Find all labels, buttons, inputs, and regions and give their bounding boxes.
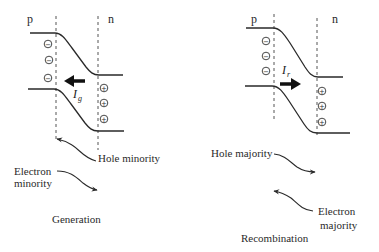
- right-arrow-icon: [280, 78, 301, 90]
- generation-current-subscript: g: [78, 94, 82, 103]
- negative-ions: − − −: [44, 40, 53, 82]
- electron-minority-label-line2: minority: [14, 177, 52, 189]
- svg-text:−: −: [45, 41, 51, 49]
- plus-icon: +: [318, 118, 326, 126]
- svg-text:−: −: [45, 75, 51, 83]
- electron-majority-label-line1: Electron: [318, 205, 356, 217]
- n-region-label: n: [108, 12, 114, 26]
- hole-majority-label: Hole majority: [211, 147, 273, 159]
- minus-icon: −: [262, 52, 270, 60]
- minus-icon: −: [45, 56, 53, 64]
- negative-ions: − − −: [262, 37, 270, 75]
- svg-text:−: −: [263, 38, 269, 46]
- pn-junction-diagrams: p n − − − + + + I g Hole minority Electr…: [0, 0, 379, 252]
- svg-text:−: −: [263, 68, 269, 76]
- recombination-caption: Recombination: [241, 232, 309, 244]
- recombination-current-subscript: r: [287, 70, 291, 79]
- conduction-band: [246, 28, 343, 77]
- positive-ions: + + +: [318, 87, 326, 126]
- svg-text:+: +: [101, 100, 107, 108]
- hole-majority-arrow: [274, 154, 315, 172]
- svg-text:−: −: [263, 53, 269, 61]
- generation-diagram: p n − − − + + + I g Hole minority Electr…: [14, 12, 161, 225]
- electron-minority-label-line1: Electron: [14, 165, 52, 177]
- minus-icon: −: [44, 74, 52, 82]
- hole-minority-label: Hole minority: [98, 152, 161, 164]
- conduction-band: [30, 33, 123, 75]
- plus-icon: +: [318, 102, 326, 110]
- minus-icon: −: [262, 37, 270, 45]
- svg-text:+: +: [101, 116, 107, 124]
- minus-icon: −: [44, 40, 52, 48]
- svg-text:+: +: [319, 119, 325, 127]
- plus-icon: +: [100, 99, 108, 107]
- p-region-label: p: [251, 12, 257, 26]
- plus-icon: +: [318, 87, 326, 95]
- plus-icon: +: [100, 115, 108, 123]
- electron-minority-arrow: [57, 171, 97, 190]
- left-arrow-icon: [64, 75, 85, 87]
- plus-icon: +: [100, 84, 108, 92]
- generation-caption: Generation: [52, 213, 101, 225]
- electron-majority-arrow: [274, 191, 313, 211]
- svg-text:−: −: [46, 57, 52, 65]
- valence-band: [245, 86, 350, 133]
- electron-majority-label-line2: majority: [320, 219, 358, 231]
- svg-text:+: +: [319, 103, 325, 111]
- hole-minority-arrow: [57, 139, 96, 161]
- p-region-label: p: [27, 12, 33, 26]
- n-region-label: n: [332, 12, 338, 26]
- svg-text:+: +: [319, 88, 325, 96]
- minus-icon: −: [262, 67, 270, 75]
- svg-text:+: +: [101, 85, 107, 93]
- recombination-diagram: p n − − − + + + I r Hole majority Electr…: [211, 12, 358, 244]
- positive-ions: + + +: [100, 84, 108, 123]
